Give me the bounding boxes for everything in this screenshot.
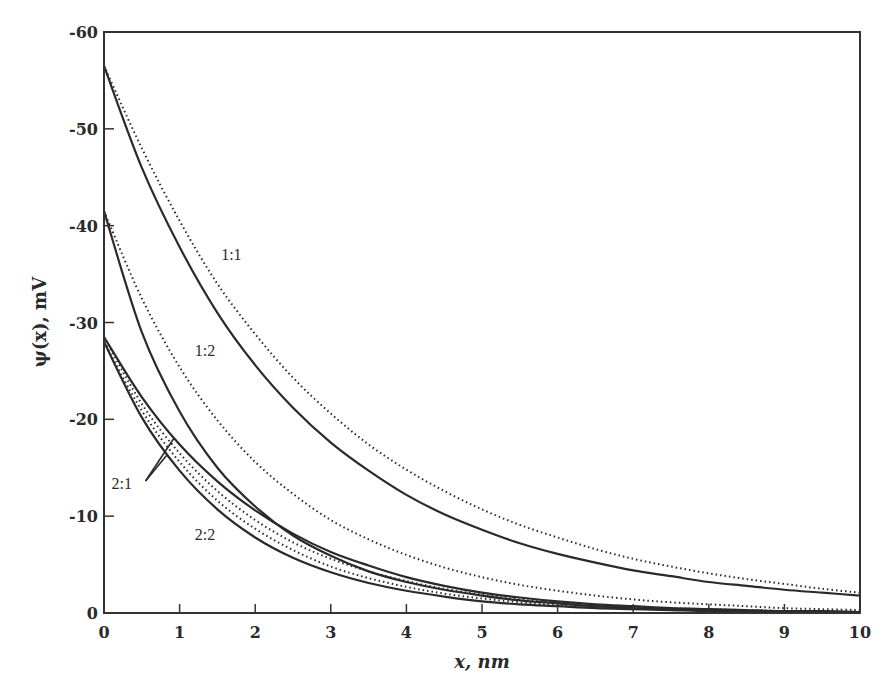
x-tick-label: 7 [628,623,639,642]
pointer-line [146,455,167,481]
label-2-2: 2:2 [195,526,215,543]
x-tick-label: 3 [325,623,336,642]
y-tick-label: -50 [69,120,98,139]
y-tick-label: -20 [69,410,98,429]
x-tick-label: 4 [401,623,412,642]
series-1-1-dotted [104,66,860,593]
x-tick-label: 10 [849,623,871,642]
y-axis-title: ψ(x), mV [29,276,50,367]
chart: 012345678910 0-10-20-30-40-50-60 x, nm ψ… [0,0,891,696]
y-tick-label: -10 [69,507,98,526]
y-tick-label: 0 [87,604,98,623]
x-tick-label: 1 [174,623,185,642]
plot-area [104,66,860,612]
x-tick-label: 5 [476,623,487,642]
series-2-1-solid [104,337,860,612]
label-1-2: 1:2 [195,342,215,359]
y-tick-label: -30 [69,314,98,333]
y-tick-label: -60 [69,23,98,42]
x-tick-label: 2 [250,623,261,642]
series-1-2-dotted [104,211,860,610]
label-1-1: 1:1 [221,246,241,263]
series-2-2-solid [104,342,860,612]
x-tick-label: 9 [779,623,790,642]
x-tick-label: 6 [552,623,563,642]
series-1-2-solid [104,211,860,612]
series-2-2-dotted [104,342,860,612]
series-1-1-solid [104,66,860,596]
x-tick-label: 8 [703,623,714,642]
x-axis-title: x, nm [453,651,509,672]
label-2-1: 2:1 [112,475,132,492]
series-2-1-dotted [104,337,860,612]
plot-frame [104,32,860,613]
y-axis: 0-10-20-30-40-50-60 [69,23,114,623]
curve-labels: 1:11:22:12:2 [112,246,242,544]
x-tick-label: 0 [98,623,109,642]
y-tick-label: -40 [69,217,98,236]
